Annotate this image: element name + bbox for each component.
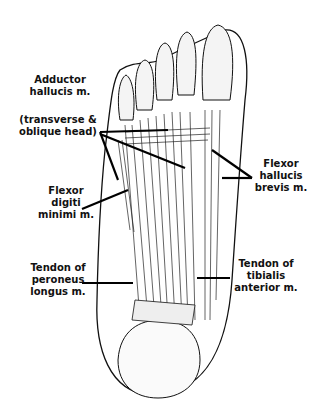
label-flexor-hallucis-brevis: Flexor hallucis brevis m. [248, 158, 314, 194]
label-tendon-peroneus-longus: Tendon of peroneus longus m. [22, 262, 94, 298]
label-adductor-hallucis: Adductor hallucis m. [20, 74, 100, 98]
label-flexor-digiti-minimi: Flexor digiti minimi m. [30, 185, 102, 221]
label-tendon-tibialis-anterior: Tendon of tibialis anterior m. [228, 258, 304, 294]
label-adductor-heads: (transverse & oblique head) [14, 114, 102, 138]
